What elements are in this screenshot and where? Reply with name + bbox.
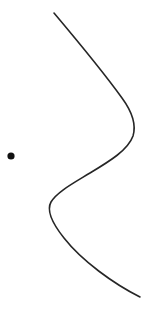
figure-canvas xyxy=(0,0,151,311)
isolated-point-marker xyxy=(7,152,14,159)
curve-diagram-svg xyxy=(0,0,151,311)
plot-background xyxy=(0,0,151,311)
